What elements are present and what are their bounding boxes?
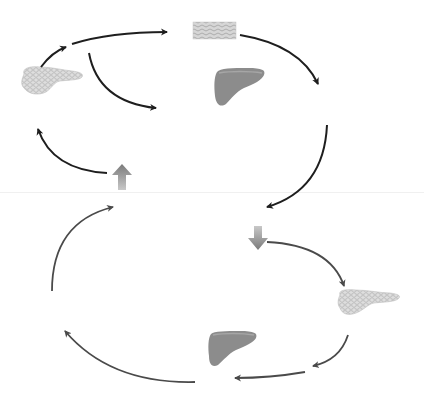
arrow-pancreas-down	[313, 335, 348, 366]
block-arrow-up-icon	[112, 164, 132, 190]
arrow-right-down	[267, 125, 327, 207]
arrow-back-to-pancreas	[38, 129, 107, 173]
arrow-to-tissue	[72, 32, 167, 44]
arrow-pancreas-to-split	[41, 47, 66, 67]
arrow-to-pancreas	[267, 242, 344, 286]
pancreas-icon	[338, 290, 399, 315]
tissue-cells-icon	[193, 22, 236, 39]
bottom-cycle	[52, 207, 400, 382]
pancreas-icon	[22, 67, 83, 94]
liver-icon	[214, 68, 264, 106]
arrow-bottom-left	[235, 372, 305, 378]
homeostasis-cycle-diagram	[0, 0, 424, 399]
arrow-to-liver	[89, 53, 156, 108]
arrow-bottom-curve-up	[65, 331, 195, 382]
block-arrow-down-icon	[248, 226, 268, 250]
liver-icon	[208, 331, 256, 366]
top-cycle	[22, 22, 327, 207]
arrow-left-up	[52, 207, 113, 291]
